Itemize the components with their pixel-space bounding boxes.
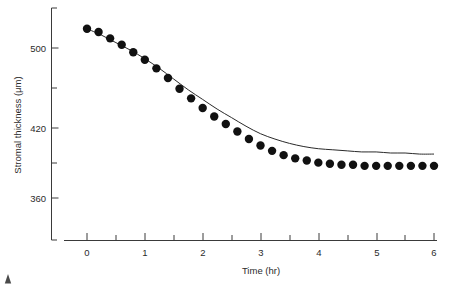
data-point [164, 74, 172, 82]
data-point [198, 104, 206, 112]
data-point [268, 147, 276, 155]
data-point [222, 120, 230, 128]
x-axis-title: Time (hr) [242, 265, 280, 276]
data-point [372, 162, 380, 170]
data-point [349, 161, 357, 169]
data-point [337, 161, 345, 169]
data-point [407, 162, 415, 170]
data-point [129, 48, 137, 56]
figure-container: 500 420 360 Stromal thickness (μm) 0 1 [0, 0, 449, 288]
data-point [210, 112, 218, 120]
x-tick-label-1: 1 [142, 247, 147, 258]
x-tick-label-2: 2 [200, 247, 205, 258]
data-point [430, 162, 438, 170]
stromal-thickness-plot: 500 420 360 Stromal thickness (μm) 0 1 [0, 0, 449, 288]
x-tick-label-5: 5 [374, 247, 379, 258]
data-point [279, 151, 287, 159]
data-point [418, 162, 426, 170]
data-point [94, 28, 102, 36]
data-point [395, 162, 403, 170]
data-point [83, 25, 91, 33]
data-point [303, 156, 311, 164]
x-tick-label-4: 4 [316, 247, 321, 258]
y-tick-label-500: 500 [30, 43, 46, 54]
data-point [187, 94, 195, 102]
fitted-curve-layer [87, 29, 434, 154]
data-point [245, 135, 253, 143]
corner-registration-mark [4, 274, 12, 284]
y-axis-title: Stromal thickness (μm) [12, 76, 23, 173]
y-tick-label-360: 360 [30, 193, 46, 204]
data-point [384, 162, 392, 170]
x-tick-label-6: 6 [431, 247, 436, 258]
x-tick-label-3: 3 [258, 247, 263, 258]
scatter-points-layer [83, 25, 438, 171]
x-axis-group: 0 1 2 3 4 5 6 Time (hr) [64, 233, 437, 276]
data-point [141, 56, 149, 64]
data-point [291, 154, 299, 162]
data-point [152, 64, 160, 72]
data-point [118, 41, 126, 49]
data-point [233, 127, 241, 135]
y-tick-label-420: 420 [30, 123, 46, 134]
data-point [314, 158, 322, 166]
x-tick-label-0: 0 [84, 247, 89, 258]
data-point [256, 141, 264, 149]
data-point [106, 34, 114, 42]
data-point [326, 160, 334, 168]
fitted-decay-curve [87, 29, 434, 154]
data-point [360, 162, 368, 170]
y-axis-group: 500 420 360 Stromal thickness (μm) [12, 8, 59, 240]
data-point [175, 85, 183, 93]
